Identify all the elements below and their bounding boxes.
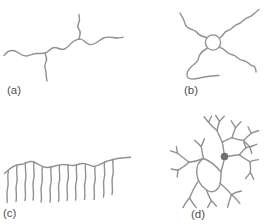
- branch-stroke: [171, 151, 178, 153]
- branch-stroke: [222, 142, 224, 153]
- chain-stroke: [220, 10, 259, 38]
- branch-stroke: [204, 117, 209, 122]
- branch-stroke: [221, 160, 224, 172]
- branch-stroke: [248, 127, 251, 134]
- side-chain-stroke: [67, 165, 68, 201]
- branch-stroke: [250, 160, 259, 162]
- branch-stroke: [171, 169, 178, 170]
- branch-stroke: [209, 122, 218, 130]
- branch-stroke: [239, 148, 246, 155]
- focal-point-dot: [221, 153, 229, 161]
- branch-stroke: [250, 173, 253, 180]
- branch-stroke: [251, 131, 259, 134]
- panel-c-label: (c): [3, 207, 16, 219]
- side-chain-stroke: [16, 166, 17, 202]
- branch-stroke: [239, 155, 249, 162]
- branch-stroke: [231, 121, 235, 128]
- ring-stroke: [197, 159, 221, 192]
- chain-stroke: [180, 13, 207, 38]
- side-chain-stroke: [41, 167, 43, 202]
- side-chain-stroke: [59, 166, 60, 202]
- hyperbranched-polymer-icon: [171, 116, 259, 208]
- branch-stroke: [244, 133, 252, 140]
- side-chain-stroke: [76, 165, 77, 200]
- branch-stroke: [177, 170, 178, 177]
- chain-stroke: [4, 37, 123, 56]
- branch-stroke: [217, 121, 220, 130]
- branch-stroke: [236, 122, 242, 128]
- branch-stroke: [250, 162, 251, 173]
- branch-stroke: [195, 140, 202, 146]
- branch-stroke: [232, 138, 244, 141]
- branch-stroke: [250, 147, 252, 154]
- branched-polymer-chain-icon: [4, 15, 123, 82]
- chain-stroke: [220, 48, 256, 73]
- branch-stroke: [183, 198, 190, 208]
- side-chain-stroke: [25, 163, 26, 201]
- side-chain-stroke: [50, 168, 51, 203]
- chain-stroke: [187, 49, 219, 80]
- branch-stroke: [228, 195, 232, 208]
- comb-polymer-icon: [5, 157, 131, 202]
- side-chain-stroke: [94, 167, 95, 200]
- branch-stroke: [190, 198, 197, 208]
- branch-stroke: [246, 146, 252, 147]
- branch-stroke: [229, 155, 240, 156]
- star-polymer-icon: [180, 10, 259, 80]
- branch-stroke: [217, 131, 222, 143]
- branch-stroke: [201, 139, 204, 147]
- polymer-diagrams-canvas: [0, 0, 266, 224]
- panel-a-label: (a): [7, 84, 21, 96]
- chain-stroke: [45, 53, 47, 81]
- branch-stroke: [208, 201, 212, 208]
- chain-stroke: [78, 15, 81, 40]
- branch-stroke: [176, 147, 177, 154]
- side-chain-stroke: [7, 172, 9, 203]
- polymer-architectures-figure: (a) (b) (c) (d): [0, 0, 266, 224]
- branch-stroke: [232, 128, 236, 138]
- side-chain-stroke: [85, 165, 86, 200]
- side-chain-stroke: [104, 162, 105, 197]
- branch-stroke: [232, 191, 242, 195]
- branch-stroke: [178, 162, 189, 170]
- branch-stroke: [232, 195, 240, 204]
- branch-stroke: [220, 116, 225, 121]
- side-chain-stroke: [112, 160, 113, 195]
- panel-d-label: (d): [191, 208, 205, 220]
- branch-stroke: [211, 201, 216, 206]
- panel-b-label: (b): [184, 84, 198, 96]
- branch-stroke: [222, 138, 232, 143]
- branch-stroke: [220, 184, 231, 195]
- side-chain-stroke: [33, 162, 34, 200]
- branch-stroke: [190, 181, 199, 198]
- branch-stroke: [201, 147, 203, 159]
- core-circle: [205, 35, 220, 50]
- branch-stroke: [246, 173, 251, 179]
- branch-stroke: [216, 116, 220, 122]
- branch-stroke: [209, 116, 212, 122]
- branch-stroke: [177, 153, 189, 162]
